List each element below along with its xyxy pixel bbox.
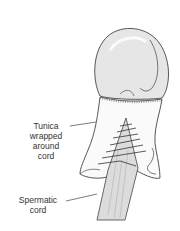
leader-cord	[66, 194, 97, 201]
label-line: cord	[24, 151, 68, 161]
label-line: cord	[10, 205, 66, 215]
label-line: Spermatic	[10, 195, 66, 205]
label-spermatic-cord: Spermatic cord	[10, 195, 66, 215]
label-line: Tunica	[24, 121, 68, 131]
label-line: wrapped	[24, 131, 68, 141]
label-line: around	[24, 141, 68, 151]
label-tunica-wrapped-around-cord: Tunica wrapped around cord	[24, 121, 68, 161]
leader-tunica	[70, 122, 96, 126]
